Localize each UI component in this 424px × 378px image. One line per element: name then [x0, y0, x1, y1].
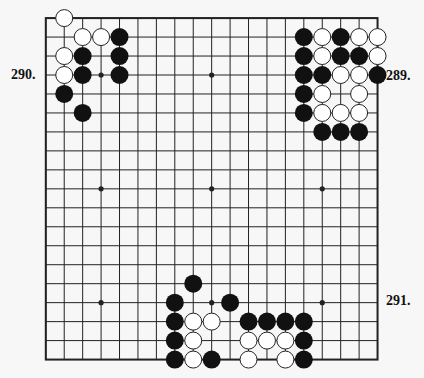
black-stone	[184, 275, 202, 293]
white-stone	[185, 313, 202, 330]
white-stone	[56, 67, 73, 84]
black-stone	[111, 66, 129, 84]
black-stone	[332, 47, 350, 65]
white-stone	[74, 29, 91, 46]
star-point	[209, 72, 214, 77]
black-stone	[295, 351, 313, 369]
black-stone	[166, 313, 184, 331]
black-stone	[166, 294, 184, 312]
black-stone	[111, 47, 129, 65]
star-point	[98, 300, 103, 305]
white-stone	[258, 332, 275, 349]
star-point	[320, 300, 325, 305]
white-stone	[314, 85, 331, 102]
black-stone	[313, 66, 331, 84]
white-stone	[369, 29, 386, 46]
black-stone	[221, 294, 239, 312]
black-stone	[350, 123, 368, 141]
white-stone	[314, 48, 331, 65]
problem-label-291: 291.	[386, 294, 411, 308]
black-stone	[166, 332, 184, 350]
problem-label-290: 290.	[11, 68, 36, 82]
go-board	[0, 0, 424, 378]
black-stone	[276, 313, 294, 331]
white-stone	[185, 332, 202, 349]
star-point	[209, 186, 214, 191]
black-stone	[332, 123, 350, 141]
white-stone	[240, 332, 257, 349]
black-stone	[295, 332, 313, 350]
white-stone	[351, 67, 368, 84]
black-stone	[350, 47, 368, 65]
problem-label-289: 289.	[386, 69, 411, 83]
black-stone	[74, 47, 92, 65]
black-stone	[313, 123, 331, 141]
black-stone	[295, 47, 313, 65]
white-stone	[56, 10, 73, 27]
black-stone	[295, 66, 313, 84]
black-stone	[203, 351, 221, 369]
star-point	[320, 186, 325, 191]
black-stone	[332, 28, 350, 46]
black-stone	[74, 104, 92, 122]
black-stone	[55, 85, 73, 103]
white-stone	[351, 29, 368, 46]
white-stone	[351, 104, 368, 121]
black-stone	[111, 28, 129, 46]
black-stone	[74, 66, 92, 84]
white-stone	[314, 104, 331, 121]
white-stone	[314, 29, 331, 46]
white-stone	[56, 48, 73, 65]
black-stone	[295, 28, 313, 46]
white-stone	[369, 48, 386, 65]
white-stone	[277, 351, 294, 368]
white-stone	[240, 351, 257, 368]
star-point	[98, 186, 103, 191]
black-stone	[166, 351, 184, 369]
white-stone	[185, 351, 202, 368]
white-stone	[351, 85, 368, 102]
star-point	[209, 300, 214, 305]
white-stone	[277, 332, 294, 349]
star-point	[98, 72, 103, 77]
black-stone	[295, 85, 313, 103]
black-stone	[295, 313, 313, 331]
white-stone	[93, 29, 110, 46]
black-stone	[258, 313, 276, 331]
black-stone	[295, 104, 313, 122]
white-stone	[332, 67, 349, 84]
black-stone	[369, 66, 387, 84]
white-stone	[332, 104, 349, 121]
white-stone	[203, 313, 220, 330]
black-stone	[240, 313, 258, 331]
